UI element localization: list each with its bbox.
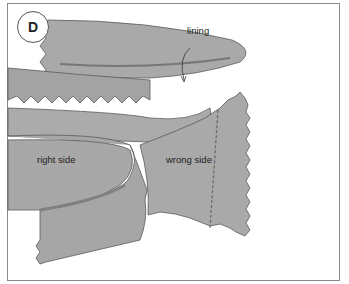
upper-fabric-band — [40, 20, 246, 78]
lining-label: lining — [187, 25, 209, 36]
right-side-label: right side — [37, 154, 76, 165]
fabric-illustration — [0, 0, 349, 284]
step-badge: D — [17, 11, 49, 43]
wrong-side-label: wrong side — [166, 154, 212, 165]
